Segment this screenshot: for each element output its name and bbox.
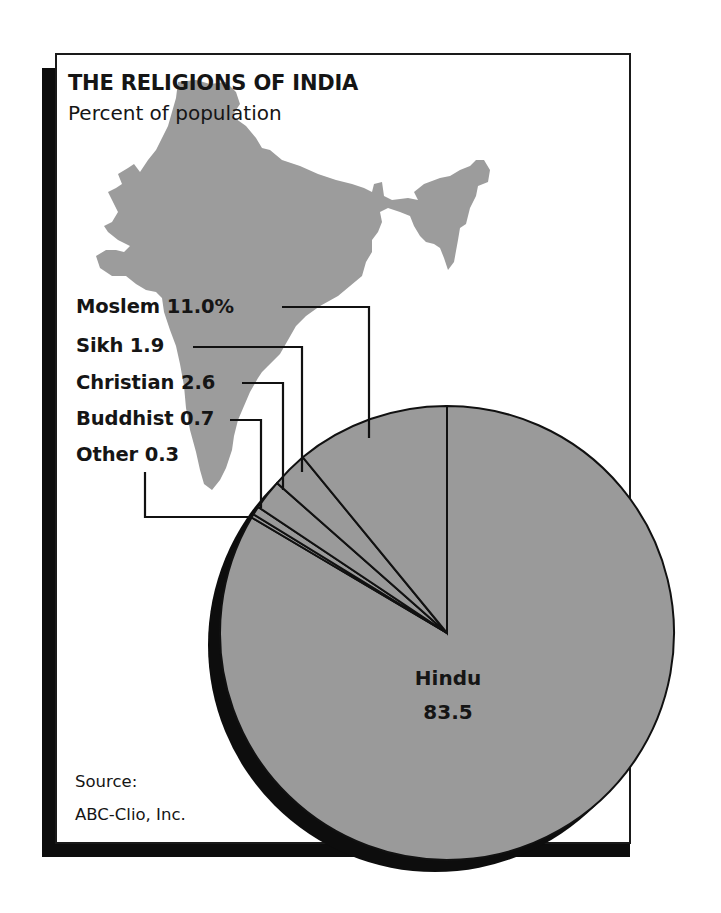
label-other: Other 0.3 xyxy=(76,443,179,466)
source-name: ABC-Clio, Inc. xyxy=(75,805,186,824)
label-hindu: Hindu xyxy=(385,666,511,690)
label-hindu-value: 83.5 xyxy=(385,700,511,724)
label-moslem: Moslem 11.0% xyxy=(76,295,234,318)
label-christian: Christian 2.6 xyxy=(76,371,215,394)
chart-subtitle: Percent of population xyxy=(68,101,282,125)
chart-title: THE RELIGIONS OF INDIA xyxy=(68,71,358,95)
label-sikh: Sikh 1.9 xyxy=(76,334,164,357)
source-label: Source: xyxy=(75,772,137,791)
label-buddhist: Buddhist 0.7 xyxy=(76,407,214,430)
pie-chart xyxy=(220,406,674,860)
chart-figure: THE RELIGIONS OF INDIA Percent of popula… xyxy=(0,0,721,913)
